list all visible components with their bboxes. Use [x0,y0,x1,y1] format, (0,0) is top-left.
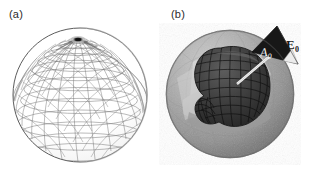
panel-b-graphic [159,0,318,170]
panel-a-label: (a) [9,9,23,20]
area-vector-symbol: A [260,45,268,59]
panel-a-graphic [0,0,159,170]
panel-a: (a) [0,0,159,170]
field-vector-subscript: 0 [295,45,299,54]
area-vector-subscript: 0 [268,51,272,60]
figure-container: (a) [0,0,318,170]
cutaway-sphere-svg [159,0,318,170]
panel-b: A0 E0 (b) [159,0,318,170]
pole-core [75,38,80,41]
area-vector-label: A0 [260,46,272,58]
field-vector-symbol: E [286,37,295,52]
inner-blob-body [195,46,270,126]
panel-b-label: (b) [171,9,185,20]
field-vector-label: E0 [286,38,299,51]
wireframe-sphere-svg [0,0,159,170]
